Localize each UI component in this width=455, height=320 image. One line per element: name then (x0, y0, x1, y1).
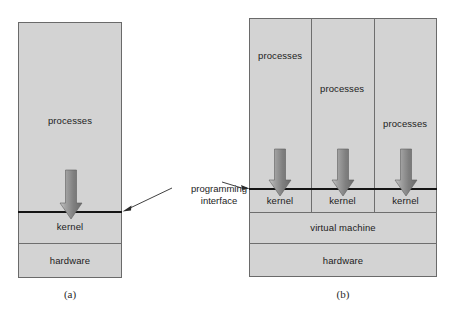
panel-b-programming-interface-line (249, 188, 437, 190)
panel-b-kernel-label-2: kernel (311, 195, 374, 206)
panel-a-kernel-label: kernel (18, 221, 122, 232)
panel-a-caption: (a) (18, 288, 122, 300)
figure-canvas: processes kernel hardware (a) processes … (0, 0, 455, 320)
panel-a-hardware-label: hardware (18, 255, 122, 266)
panel-b-virtual-machine-label: virtual machine (249, 222, 437, 233)
panel-a-outer-box (18, 22, 122, 278)
panel-b-processes-label-3: processes (383, 118, 427, 129)
panel-a-processes-label: processes (18, 115, 122, 126)
panel-a-programming-interface-line (18, 211, 122, 213)
panel-a-kernel-hardware-divider (18, 243, 122, 244)
panel-b-column-divider-2 (374, 18, 375, 212)
panel-b-vm-hardware-divider (249, 243, 437, 244)
panel-b-processes-label-2: processes (320, 83, 364, 94)
panel-b-caption: (b) (249, 288, 437, 300)
programming-interface-line-2: interface (176, 195, 262, 207)
programming-interface-annotation: programming interface (176, 183, 262, 207)
panel-b-kernel-label-3: kernel (374, 195, 437, 206)
panel-b-column-divider-1 (311, 18, 312, 212)
panel-b-hardware-label: hardware (249, 255, 437, 266)
panel-b-processes-label-1: processes (258, 50, 302, 61)
leader-line-to-panel-a (123, 188, 173, 212)
programming-interface-line-1: programming (176, 183, 262, 195)
panel-b-kernel-vm-divider (249, 212, 437, 213)
